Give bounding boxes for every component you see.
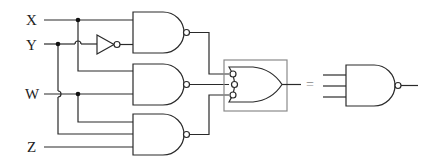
input-label-w: W <box>25 87 39 102</box>
or-input-bubble-2 <box>232 82 238 88</box>
logic-circuit-diagram <box>0 0 440 167</box>
wire-w <box>44 94 133 122</box>
input-label-x: X <box>26 13 37 28</box>
or-input-bubble-3 <box>230 92 236 98</box>
nand-gate-2 <box>133 64 229 105</box>
junction-dot-x <box>76 18 81 23</box>
or-input-bubble-1 <box>230 71 236 77</box>
junction-dot-y <box>56 42 61 47</box>
or-gate-inverted-inputs <box>229 67 301 102</box>
equals-sign: = <box>306 78 314 92</box>
input-label-z: Z <box>27 140 36 155</box>
wire-y <box>44 41 133 134</box>
junction-dot-w <box>76 92 81 97</box>
input-label-y: Y <box>26 38 37 53</box>
not-gate <box>97 35 133 54</box>
inverter-bubble <box>114 42 120 48</box>
nand-gate-equivalent <box>323 65 418 106</box>
